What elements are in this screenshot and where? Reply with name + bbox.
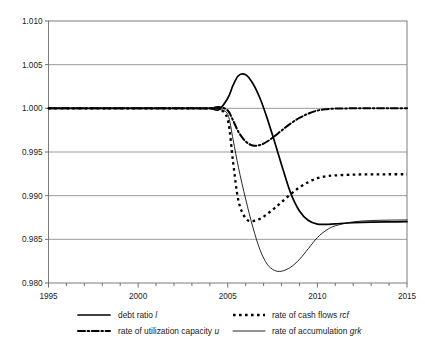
x-axis-tick-label: 1995: [39, 292, 58, 301]
legend-label-u: rate of utilization capacity u: [118, 326, 219, 336]
y-axis-tick-label: 1.010: [22, 17, 43, 26]
y-axis-tick-label: 1.005: [22, 61, 43, 70]
y-axis-tick-label: 0.990: [22, 192, 43, 201]
y-axis-tick-label: 0.985: [22, 235, 43, 244]
x-axis-tick-label: 2010: [308, 292, 327, 301]
y-axis-tick-label: 1.000: [22, 104, 43, 113]
x-axis-tick-label: 2005: [219, 292, 238, 301]
x-axis-ticks: [49, 283, 408, 288]
series-layer: [49, 74, 408, 272]
chart-container: 0.9800.9850.9900.9951.0001.0051.010 1995…: [0, 0, 425, 352]
x-axis-tick-label: 2015: [398, 292, 417, 301]
y-axis-tick-label: 0.980: [22, 279, 43, 288]
gridlines: [45, 21, 407, 283]
series-line-u: [49, 107, 408, 146]
legend-label-grk: rate of accumulation grk: [272, 326, 362, 336]
series-line-grk: [49, 108, 408, 271]
y-axis-tick-labels: 0.9800.9850.9900.9951.0001.0051.010: [22, 17, 43, 288]
line-chart: 0.9800.9850.9900.9951.0001.0051.010 1995…: [0, 0, 425, 352]
legend-label-rcf: rate of cash flows rcf: [272, 310, 350, 320]
series-line-l: [49, 74, 408, 224]
x-axis-tick-labels: 19952000200520102015: [39, 292, 416, 301]
chart-legend: debt ratio lrate of cash flows rcfrate o…: [78, 310, 362, 336]
x-axis-tick-label: 2000: [129, 292, 148, 301]
legend-label-l: debt ratio l: [118, 310, 158, 320]
series-line-rcf: [49, 108, 408, 221]
y-axis-tick-label: 0.995: [22, 148, 43, 157]
